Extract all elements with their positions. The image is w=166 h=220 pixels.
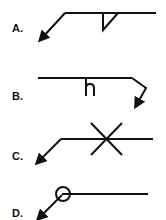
arrow-icon (132, 78, 146, 104)
weld-symbol-d (40, 187, 148, 217)
arrow-icon (39, 139, 61, 161)
weld-symbol-b (38, 78, 146, 104)
fillet-triangle-icon (103, 13, 118, 30)
weld-symbol-c (39, 123, 153, 161)
arrow-icon (40, 195, 62, 217)
weld-symbols-diagram (0, 0, 166, 220)
j-groove-icon (86, 78, 94, 96)
weld-symbol-a (42, 13, 156, 38)
arrow-icon (42, 13, 65, 38)
